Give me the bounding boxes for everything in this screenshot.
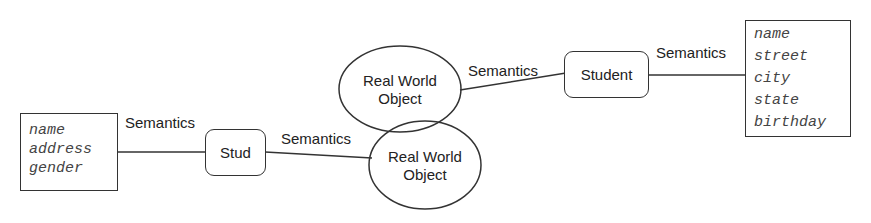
stud-node: Stud <box>205 129 266 176</box>
rwo-bottom-label: Real World Object <box>365 148 485 184</box>
rwo-bottom-line2: Object <box>365 166 485 184</box>
attr-state: state <box>754 90 850 112</box>
student-node: Student <box>564 51 649 98</box>
rwo-top-label: Real World Object <box>340 72 460 108</box>
edge-label-stud-to-rwo: Semantics <box>281 130 351 147</box>
right-attribute-box: name street city state birthday <box>745 20 851 137</box>
left-attribute-box: name address gender <box>20 113 118 191</box>
student-label: Student <box>581 66 633 83</box>
attr-city: city <box>754 68 850 90</box>
edge-label-student-to-attrs: Semantics <box>656 44 726 61</box>
attr-street: street <box>754 46 850 68</box>
stud-label: Stud <box>220 144 251 161</box>
rwo-bottom-line1: Real World <box>365 148 485 166</box>
attr-name: name <box>29 121 117 140</box>
semantics-diagram: name address gender Stud Student name st… <box>0 0 871 223</box>
diagram-connectors <box>0 0 871 223</box>
attr-address: address <box>29 140 117 159</box>
edge-stud-to-rwo <box>265 152 372 158</box>
rwo-top-line2: Object <box>340 90 460 108</box>
edge-label-attrs-to-stud: Semantics <box>125 114 195 131</box>
rwo-top-line1: Real World <box>340 72 460 90</box>
attr-birthday: birthday <box>754 112 850 134</box>
attr-gender: gender <box>29 159 117 178</box>
attr-name: name <box>754 24 850 46</box>
edge-label-rwo-to-student: Semantics <box>468 62 538 79</box>
